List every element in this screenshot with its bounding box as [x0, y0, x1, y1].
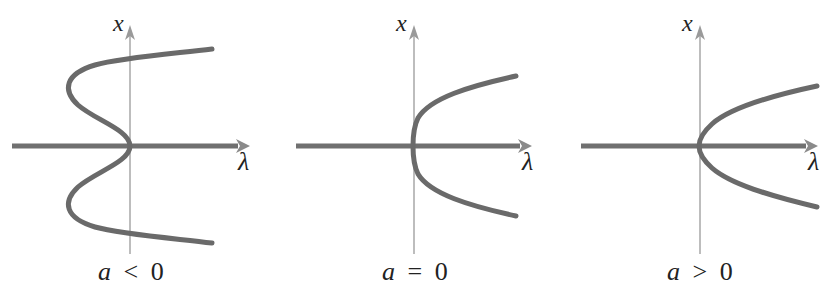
panel-a-negative: x λ a < 0 — [12, 10, 250, 286]
lambda-axis-label: λ — [521, 147, 533, 176]
x-axis-label: x — [681, 10, 693, 36]
lambda-axis-label: λ — [807, 147, 819, 176]
panel-a-positive: x λ a > 0 — [581, 10, 819, 286]
x-axis-label: x — [395, 10, 407, 36]
lambda-axis-label: λ — [237, 147, 249, 176]
x-axis-label: x — [112, 10, 124, 36]
bifurcation-diagrams: x λ a < 0 x λ a = 0 x λ a > 0 — [0, 0, 838, 294]
panel-caption: a < 0 — [98, 257, 164, 286]
panel-caption: a = 0 — [382, 257, 448, 286]
panel-a-zero: x λ a = 0 — [296, 10, 533, 286]
panel-caption: a > 0 — [667, 257, 733, 286]
